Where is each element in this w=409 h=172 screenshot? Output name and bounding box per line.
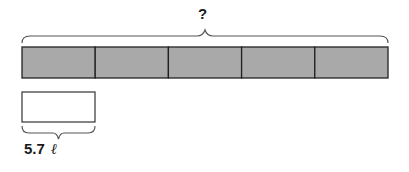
- part-box: [22, 92, 95, 122]
- segment-1: [22, 47, 95, 78]
- segment-5: [315, 47, 388, 78]
- segment-2: [95, 47, 168, 78]
- segment-4: [242, 47, 315, 78]
- total-unknown-label: ?: [198, 5, 207, 22]
- part-value-label: 5.7ℓ: [24, 140, 57, 158]
- liter-unit: ℓ: [51, 140, 57, 158]
- top-brace: [22, 30, 388, 43]
- segmented-bar: [22, 47, 388, 78]
- part-value: 5.7: [24, 140, 45, 157]
- bottom-brace: [22, 126, 95, 139]
- segment-3: [168, 47, 241, 78]
- tape-diagram: [0, 0, 409, 172]
